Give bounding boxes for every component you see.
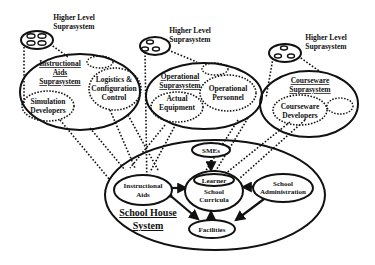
member-label: Developers xyxy=(30,106,65,115)
higher-level-label: Suprasystem xyxy=(169,35,211,44)
member-label: Equipment xyxy=(159,103,195,112)
member-label: Developers xyxy=(282,111,317,120)
system-diagram: Higher Level Suprasystem Higher Level Su… xyxy=(0,0,375,265)
instructional-aids-node xyxy=(114,175,172,205)
member-label: Courseware xyxy=(281,102,320,111)
instructional-aids-label: Aids xyxy=(136,191,150,199)
member-label: Control xyxy=(102,93,127,102)
instructional-aids-suprasystem: Instructional Aids Suprasystem Logistics… xyxy=(20,54,141,130)
operational-suprasystem: Operational Suprasystem Actual Equipment… xyxy=(146,63,262,129)
suprasystem-title: Courseware xyxy=(291,76,330,85)
member-label: Actual xyxy=(166,94,187,103)
facilities-label: Facilities xyxy=(199,226,226,234)
smes-label: SMEs xyxy=(202,147,220,155)
courseware-suprasystem: Courseware Suprasystem Courseware Develo… xyxy=(260,71,358,137)
higher-level-label: Suprasystem xyxy=(53,22,95,31)
suprasystem-title: Suprasystem xyxy=(159,81,201,90)
higher-level-label: Suprasystem xyxy=(305,42,347,51)
suprasystem-title: Instructional xyxy=(39,59,81,68)
suprasystem-title: Suprasystem xyxy=(39,77,81,86)
school-house-system: SMEs Learner School Curricula Instructio… xyxy=(105,140,325,250)
member-label: Logistics & xyxy=(96,75,132,84)
suprasystem-title: Aids xyxy=(53,68,68,77)
curricula-label: School xyxy=(204,188,224,196)
higher-level-label: Higher Level xyxy=(53,13,95,22)
school-house-title: System xyxy=(133,220,164,231)
higher-level-label: Higher Level xyxy=(305,33,347,42)
suprasystem-title: Suprasystem xyxy=(289,85,331,94)
higher-level-label: Higher Level xyxy=(169,26,211,35)
learner-label: Learner xyxy=(202,177,227,185)
instructional-aids-label: Instructional xyxy=(124,182,163,190)
member-label: Configuration xyxy=(91,84,137,93)
administration-label: School xyxy=(273,180,293,188)
higher-level-mid: Higher Level Suprasystem xyxy=(140,26,211,55)
higher-level-right: Higher Level Suprasystem xyxy=(269,33,347,62)
member-label: Operational xyxy=(209,84,248,93)
suprasystem-title: Operational xyxy=(161,72,200,81)
member-label: Simulation xyxy=(30,97,66,106)
member-label: Personnel xyxy=(212,93,244,102)
school-house-title: School House xyxy=(119,207,177,218)
administration-label: Administration xyxy=(260,188,306,196)
higher-level-left: Higher Level Suprasystem xyxy=(21,13,95,49)
curricula-label: Curricula xyxy=(199,196,229,204)
